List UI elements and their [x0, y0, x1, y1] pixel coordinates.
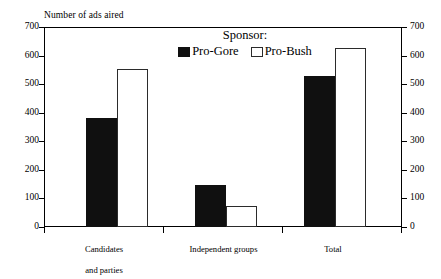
left-tick-label-200: 200	[25, 165, 39, 175]
right-tick-label-0: 0	[410, 222, 415, 232]
bar-pro-gore-candidates	[86, 118, 117, 227]
right-tick-300	[402, 141, 407, 142]
category-label-independent-groups: Independent groups	[176, 233, 271, 265]
right-tick-600	[402, 56, 407, 57]
left-tick-400	[39, 113, 44, 114]
right-tick-label-600: 600	[410, 51, 424, 61]
category-label-line1: Candidates	[64, 244, 144, 255]
category-label-total: Total	[302, 233, 364, 265]
legend-label-pro-bush: Pro-Bush	[265, 44, 312, 59]
right-tick-0	[402, 227, 407, 228]
left-axis-spine	[44, 27, 45, 227]
left-tick-500	[39, 84, 44, 85]
right-tick-label-200: 200	[410, 165, 424, 175]
bar-pro-bush-independent	[226, 206, 257, 227]
right-tick-label-100: 100	[410, 193, 424, 203]
legend-entry-pro-gore: Pro-Gore	[178, 44, 239, 59]
right-tick-700	[402, 27, 407, 28]
right-tick-label-500: 500	[410, 79, 424, 89]
left-tick-300	[39, 141, 44, 142]
right-tick-100	[402, 198, 407, 199]
right-tick-label-300: 300	[410, 136, 424, 146]
left-tick-700	[39, 27, 44, 28]
left-tick-600	[39, 56, 44, 57]
right-tick-label-700: 700	[410, 22, 424, 32]
left-tick-label-0: 0	[34, 222, 39, 232]
legend: Sponsor: Pro-Gore Pro-Bush	[150, 28, 340, 59]
left-tick-label-500: 500	[25, 79, 39, 89]
category-separator-1	[163, 227, 164, 233]
left-tick-label-300: 300	[25, 136, 39, 146]
right-tick-label-400: 400	[410, 108, 424, 118]
left-tick-label-700: 700	[25, 22, 39, 32]
category-separator-0	[44, 227, 45, 233]
left-tick-100	[39, 198, 44, 199]
left-tick-label-400: 400	[25, 108, 39, 118]
category-label-line1: Independent groups	[176, 244, 271, 255]
legend-swatch-filled-square-icon	[178, 47, 190, 57]
legend-title: Sponsor:	[150, 28, 340, 43]
category-label-line1: Total	[302, 244, 364, 255]
bar-pro-gore-independent	[195, 185, 226, 227]
legend-label-pro-gore: Pro-Gore	[192, 44, 239, 59]
legend-swatch-open-square-icon	[251, 47, 263, 57]
left-tick-200	[39, 170, 44, 171]
bar-pro-bush-total	[335, 48, 366, 227]
bar-pro-bush-candidates	[117, 69, 148, 227]
category-separator-2	[282, 227, 283, 233]
category-label-line2: and parties	[64, 265, 144, 276]
right-axis-spine	[401, 27, 402, 227]
right-tick-500	[402, 84, 407, 85]
legend-entries: Pro-Gore Pro-Bush	[150, 44, 340, 59]
left-tick-label-600: 600	[25, 51, 39, 61]
right-tick-200	[402, 170, 407, 171]
legend-entry-pro-bush: Pro-Bush	[251, 44, 312, 59]
category-separator-3	[401, 227, 402, 233]
left-tick-label-100: 100	[25, 193, 39, 203]
right-tick-400	[402, 113, 407, 114]
category-label-candidates-and-parties: Candidates and parties	[64, 233, 144, 279]
bar-pro-gore-total	[304, 76, 335, 227]
y-axis-title: Number of ads aired	[44, 10, 124, 20]
